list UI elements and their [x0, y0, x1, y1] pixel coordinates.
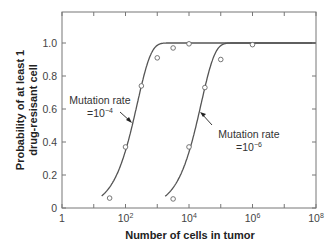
data-point-marker: [155, 56, 160, 61]
y-axis-title-line1: Probability of at least 1: [14, 50, 26, 170]
annotation-line1: Mutation rate: [218, 128, 279, 140]
curve-series-1: [102, 43, 316, 196]
x-axis-title: Number of cells in tumor: [125, 229, 255, 241]
annotation-line2: =10−4: [87, 107, 113, 119]
y-tick-label: 0.2: [42, 169, 57, 181]
curve-series-2: [165, 43, 316, 196]
y-tick-label: 1.0: [42, 37, 57, 49]
data-point-marker: [171, 197, 176, 202]
y-axis-title-line2: drug-resisant cell: [27, 64, 39, 156]
arrowhead-icon: [200, 112, 206, 117]
y-tick-label: 0.8: [42, 70, 57, 82]
y-tick-label: 0: [51, 202, 57, 214]
chart: 00.20.40.60.81.01102104106108 Probabilit…: [0, 0, 333, 248]
data-point-marker: [171, 46, 176, 51]
x-tick-label: 102: [118, 212, 134, 224]
data-point-marker: [203, 85, 208, 90]
annotation-line2: =10−6: [236, 141, 262, 153]
x-tick-label: 1: [59, 212, 65, 224]
data-point-marker: [107, 196, 112, 201]
y-tick-label: 0.4: [42, 136, 57, 148]
data-point-marker: [139, 84, 144, 89]
annotation-mutation-rate-1e-4: Mutation rate =10−4: [69, 94, 132, 123]
annotation-line1: Mutation rate: [69, 94, 130, 106]
x-tick-label: 108: [308, 212, 324, 224]
data-point-marker: [123, 145, 128, 150]
data-point-marker: [187, 42, 192, 47]
x-tick-label: 106: [245, 212, 261, 224]
data-point-marker: [250, 42, 255, 47]
data-point-marker: [187, 145, 192, 150]
x-tick-label: 104: [181, 212, 197, 224]
data-point-marker: [218, 57, 223, 62]
annotation-mutation-rate-1e-6: Mutation rate =10−6: [200, 112, 280, 153]
axis-ticks: 00.20.40.60.81.01102104106108: [42, 12, 324, 224]
y-tick-label: 0.6: [42, 103, 57, 115]
